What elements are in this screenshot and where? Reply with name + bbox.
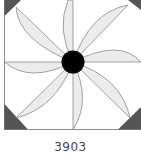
quilt-block-diagram xyxy=(0,0,141,132)
center-circle xyxy=(62,51,85,74)
pattern-number-label: 3903 xyxy=(0,140,141,154)
